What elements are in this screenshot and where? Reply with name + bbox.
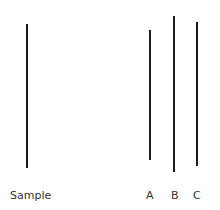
label-c: C [193,190,201,202]
diagram: Sample A B C [0,0,220,210]
label-a: A [146,190,154,202]
line-c [196,22,198,166]
sample-line [26,24,28,168]
line-b [173,16,175,172]
label-b: B [171,190,179,202]
sample-label: Sample [10,190,51,202]
line-a [149,30,151,160]
